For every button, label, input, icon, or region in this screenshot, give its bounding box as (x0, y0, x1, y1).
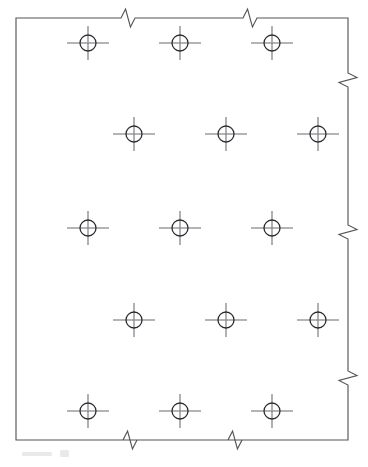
hole-marker (251, 26, 293, 60)
hole-center-point (133, 319, 135, 321)
hole-center-point (225, 133, 227, 135)
hole-center-point (271, 42, 273, 44)
hole-marker (113, 117, 155, 151)
hole-center-point (271, 227, 273, 229)
scan-smudge (22, 452, 52, 456)
hole-marker (113, 303, 155, 337)
hole-center-point (225, 319, 227, 321)
plate-outline-group (16, 9, 357, 449)
hole-center-point (87, 42, 89, 44)
hole-marker (297, 303, 339, 337)
hole-pattern-group (67, 26, 339, 428)
hole-marker (251, 394, 293, 428)
scan-smudge (60, 450, 69, 457)
plate-outline (16, 9, 357, 449)
hole-marker (67, 394, 109, 428)
hole-center-point (179, 410, 181, 412)
hole-center-point (317, 133, 319, 135)
hole-center-point (133, 133, 135, 135)
hole-marker (67, 211, 109, 245)
hole-center-point (179, 227, 181, 229)
scan-smudge-group (22, 450, 69, 457)
hole-marker (159, 26, 201, 60)
hole-marker (251, 211, 293, 245)
hole-marker (67, 26, 109, 60)
hole-center-point (271, 410, 273, 412)
hole-center-point (87, 410, 89, 412)
hole-marker (205, 117, 247, 151)
hole-center-point (87, 227, 89, 229)
hole-center-point (317, 319, 319, 321)
technical-drawing-canvas (0, 0, 368, 467)
hole-marker (159, 211, 201, 245)
plate-detail-drawing (0, 0, 368, 467)
hole-marker (159, 394, 201, 428)
hole-marker (297, 117, 339, 151)
hole-center-point (179, 42, 181, 44)
hole-marker (205, 303, 247, 337)
